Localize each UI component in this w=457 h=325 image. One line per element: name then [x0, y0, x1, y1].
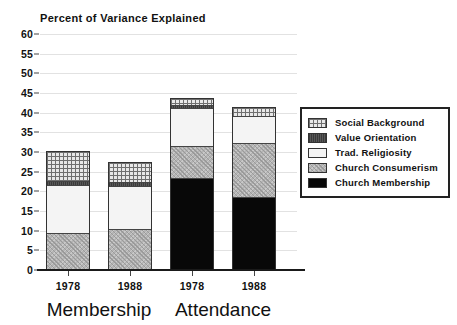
legend-swatch-icon — [308, 133, 327, 143]
bar-segment[interactable] — [233, 117, 275, 144]
bar-segment[interactable] — [47, 152, 89, 182]
legend-swatch-icon — [308, 118, 327, 128]
y-tick-label: 30 — [21, 146, 33, 158]
legend-item[interactable]: Church Membership — [308, 175, 443, 190]
bar-segment[interactable] — [171, 147, 213, 179]
legend-item[interactable]: Value Orientation — [308, 130, 443, 145]
x-group-label: Attendance — [175, 299, 271, 321]
gridline — [40, 54, 297, 55]
y-tick-label: 0 — [27, 264, 33, 276]
legend-label: Social Background — [335, 117, 424, 128]
y-tick-label: 25 — [21, 166, 33, 178]
y-tick-mark — [34, 250, 39, 251]
legend-label: Trad. Religiosity — [335, 147, 412, 158]
legend-swatch-icon — [308, 163, 327, 173]
y-tick-mark — [34, 132, 39, 133]
x-tick-label: 1988 — [118, 280, 143, 292]
x-group-label: Membership — [47, 299, 152, 321]
bar-segment[interactable] — [109, 163, 151, 182]
bar-segment[interactable] — [171, 109, 213, 148]
chart-container: Percent of Variance Explained 6055504540… — [0, 0, 457, 325]
bar-segment[interactable] — [233, 108, 275, 117]
x-tick-mark — [130, 271, 131, 276]
bar-stack[interactable] — [170, 98, 214, 270]
bar-segment[interactable] — [109, 230, 151, 270]
y-tick-label: 15 — [21, 205, 33, 217]
y-tick-label: 10 — [21, 225, 33, 237]
x-tick-mark — [192, 271, 193, 276]
y-tick-mark — [34, 211, 39, 212]
y-tick-mark — [34, 230, 39, 231]
gridline — [40, 73, 297, 74]
legend-item[interactable]: Trad. Religiosity — [308, 145, 443, 160]
chart-title: Percent of Variance Explained — [40, 12, 206, 24]
bar-segment[interactable] — [47, 234, 89, 270]
plot-area: 605550454035302520151050 197819881978198… — [40, 34, 297, 270]
legend-item[interactable]: Social Background — [308, 115, 443, 130]
x-tick-mark — [254, 271, 255, 276]
gridline — [40, 34, 297, 35]
bar-segment[interactable] — [233, 144, 275, 198]
bar-segment[interactable] — [47, 186, 89, 234]
bar-segment[interactable] — [171, 99, 213, 106]
y-tick-mark — [34, 171, 39, 172]
y-tick-label: 40 — [21, 107, 33, 119]
legend-item[interactable]: Church Consumerism — [308, 160, 443, 175]
y-tick-label: 60 — [21, 28, 33, 40]
y-tick-mark — [34, 53, 39, 54]
bar-stack[interactable] — [46, 151, 90, 270]
x-tick-mark — [68, 271, 69, 276]
bar-segment[interactable] — [109, 187, 151, 231]
y-tick-mark — [34, 152, 39, 153]
bar-segment[interactable] — [171, 179, 213, 270]
gridline — [40, 93, 297, 94]
y-tick-label: 35 — [21, 126, 33, 138]
bar-stack[interactable] — [232, 107, 276, 270]
y-tick-label: 20 — [21, 185, 33, 197]
x-tick-label: 1978 — [56, 280, 81, 292]
y-tick-mark — [34, 93, 39, 94]
legend-swatch-icon — [308, 178, 327, 188]
x-tick-label: 1978 — [180, 280, 205, 292]
y-tick-mark — [34, 34, 39, 35]
y-tick-label: 50 — [21, 67, 33, 79]
bar-stack[interactable] — [108, 162, 152, 270]
y-tick-mark — [34, 73, 39, 74]
legend-label: Church Membership — [335, 177, 430, 188]
y-tick-mark — [34, 112, 39, 113]
legend-swatch-icon — [308, 148, 327, 158]
chart-legend: Social BackgroundValue OrientationTrad. … — [300, 107, 450, 198]
legend-label: Church Consumerism — [335, 162, 438, 173]
bar-segment[interactable] — [233, 198, 275, 270]
y-tick-label: 45 — [21, 87, 33, 99]
legend-label: Value Orientation — [335, 132, 417, 143]
x-axis-line — [37, 269, 305, 271]
y-tick-mark — [34, 191, 39, 192]
x-tick-label: 1988 — [242, 280, 267, 292]
y-tick-label: 55 — [21, 48, 33, 60]
y-tick-label: 5 — [27, 244, 33, 256]
